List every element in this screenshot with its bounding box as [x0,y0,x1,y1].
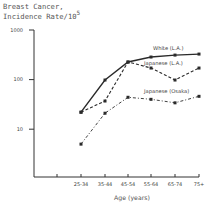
x-tick-label: 65-74 [168,181,183,187]
data-point [127,61,130,64]
x-tick-label: 25-34 [74,181,89,187]
data-point [198,67,201,70]
x-tick-label: 75+ [194,181,205,187]
data-point [80,143,83,146]
x-tick-label: 45-54 [121,181,136,187]
data-point [150,56,153,59]
legend-white-la: White (L.A.) [153,45,183,51]
data-point [174,79,177,82]
legend-japanese-osaka: Japanese (Osaka) [143,88,189,95]
x-axis-label: Age (years) [114,194,150,202]
series-line [81,96,199,144]
chart: Breast Cancer, Incidence Rate/105 100010… [0,0,219,214]
data-point [174,101,177,104]
series-2 [80,95,201,146]
data-point [104,100,107,103]
data-point [150,98,153,101]
data-point [127,96,130,99]
data-point [198,95,201,98]
x-ticks: 25-3435-4445-5455-6465-7475+ [57,174,204,187]
data-point [80,111,83,114]
data-point [174,54,177,57]
x-tick-label: 55-64 [144,181,159,187]
y-tick-label: 10 [17,126,23,132]
y-tick-label: 100 [13,76,23,82]
data-point [198,53,201,56]
series-layer [80,53,201,146]
chart-title-line1: Breast Cancer, [3,2,64,11]
y-tick-label: 1000 [10,27,23,33]
data-point [104,79,107,82]
x-tick-label: 35-44 [98,181,113,187]
y-ticks: 100010010 [10,27,34,132]
data-point [150,67,153,70]
legend-japanese-la: Japanese (L.A.) [143,60,183,67]
data-point [104,112,107,115]
